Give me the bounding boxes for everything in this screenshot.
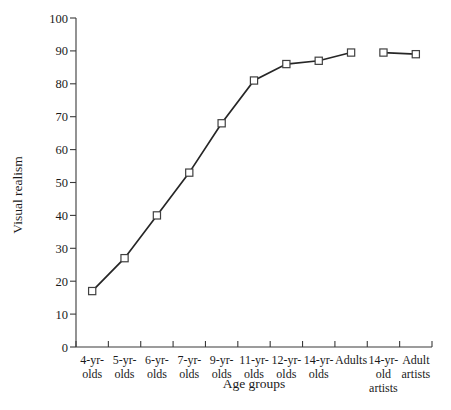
series-data-markers — [89, 49, 420, 295]
x-category-label: 5-yr- — [113, 353, 137, 367]
data-point-marker — [186, 169, 193, 176]
y-tick-label: 60 — [56, 143, 69, 157]
data-point-marker — [412, 51, 419, 58]
x-category-label: 14-yr- — [304, 353, 334, 367]
data-point-marker — [121, 255, 128, 262]
data-point-marker — [250, 77, 257, 84]
y-axis-tick-labels: 0102030405060708090100 — [49, 12, 68, 355]
y-tick-label: 40 — [56, 209, 69, 223]
line-chart: 0102030405060708090100 4-yr-olds5-yr-old… — [0, 0, 451, 410]
x-category-label: artists — [369, 381, 398, 395]
x-category-label: olds — [82, 367, 102, 381]
x-axis-tick-marks — [76, 341, 432, 347]
chart-figure: 0102030405060708090100 4-yr-olds5-yr-old… — [0, 0, 451, 410]
x-category-label: olds — [179, 367, 199, 381]
series-segment-artists — [383, 53, 415, 55]
data-point-marker — [153, 212, 160, 219]
x-axis-title: Age groups — [223, 376, 286, 391]
x-category-label: Adult — [402, 353, 430, 367]
y-tick-label: 20 — [56, 275, 69, 289]
series-segment-non-artists — [92, 53, 351, 292]
x-category-label: 11-yr- — [239, 353, 268, 367]
x-category-label: 9-yr- — [210, 353, 234, 367]
x-category-label: olds — [309, 367, 329, 381]
data-point-marker — [347, 49, 354, 56]
y-tick-label: 0 — [62, 341, 68, 355]
x-category-label: olds — [147, 367, 167, 381]
x-category-label: olds — [115, 367, 135, 381]
data-point-marker — [218, 120, 225, 127]
x-category-label: Adults — [335, 353, 367, 367]
y-tick-label: 10 — [56, 308, 69, 322]
y-tick-label: 100 — [49, 12, 68, 26]
x-category-label: 14-yr- — [369, 353, 399, 367]
data-point-marker — [89, 287, 96, 294]
x-category-label: artists — [401, 367, 430, 381]
x-category-label: 7-yr- — [177, 353, 201, 367]
y-axis-title: Visual realism — [10, 156, 25, 234]
x-category-label: 6-yr- — [145, 353, 169, 367]
y-tick-label: 50 — [56, 176, 69, 190]
y-tick-label: 90 — [56, 44, 69, 58]
x-category-label: 4-yr- — [80, 353, 104, 367]
x-category-label: old — [376, 367, 391, 381]
y-tick-label: 70 — [56, 110, 69, 124]
data-point-marker — [283, 60, 290, 67]
data-point-marker — [380, 49, 387, 56]
y-axis-tick-marks — [70, 18, 76, 347]
x-category-label: 12-yr- — [271, 353, 301, 367]
series-line-path — [92, 53, 416, 292]
y-tick-label: 80 — [56, 77, 69, 91]
y-tick-label: 30 — [56, 242, 69, 256]
data-point-marker — [315, 57, 322, 64]
